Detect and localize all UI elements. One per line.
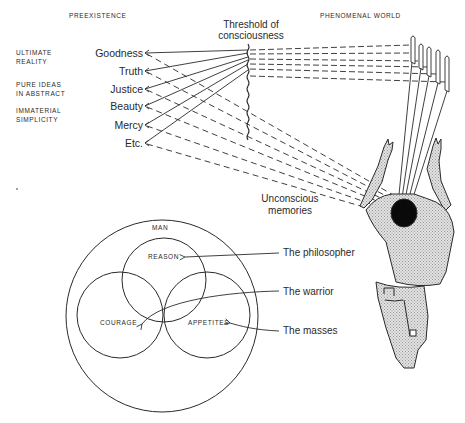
diagram-graphics — [0, 0, 465, 423]
unconscious-memories-label: Unconscious memories — [250, 194, 330, 216]
warrior-label: The warrior — [283, 287, 334, 297]
reason-label: REASON — [148, 254, 179, 261]
header-phenomenal-world: PHENOMENAL WORLD — [320, 13, 401, 20]
idea-etc: Etc. — [125, 138, 143, 149]
descriptor-immaterial-simplicity: IMMATERIAL SIMPLICITY — [16, 108, 61, 123]
man-circle — [66, 220, 258, 412]
header-preexistence: PREEXISTENCE — [69, 13, 126, 20]
stray-dot — [16, 188, 18, 190]
philosopher-label: The philosopher — [283, 248, 355, 258]
threshold-line — [247, 44, 249, 140]
appetites-label: APPETITES — [188, 320, 229, 327]
courage-circle — [77, 272, 163, 358]
idea-beauty: Beauty — [110, 101, 143, 112]
man-label: MAN — [152, 225, 168, 232]
courage-label: COURAGE — [100, 320, 137, 327]
idea-truth: Truth — [119, 66, 143, 77]
hand-fingers — [411, 36, 449, 92]
descriptor-ultimate-reality: ULTIMATE REALITY — [16, 50, 52, 65]
masses-label: The masses — [283, 326, 337, 336]
platonic-ideas-diagram: PREEXISTENCE PHENOMENAL WORLD ULTIMATE R… — [0, 0, 465, 423]
human-figure — [360, 138, 454, 368]
conscious-dashed-lines — [250, 45, 446, 82]
descriptor-pure-ideas: PURE IDEAS IN ABSTRACT — [16, 82, 65, 97]
idea-mercy: Mercy — [114, 120, 143, 131]
unconscious-memory-dashed-lines — [147, 54, 395, 216]
idea-justice: Justice — [110, 84, 143, 95]
threshold-label: Threshold of consciousness — [218, 20, 284, 41]
appetites-circle — [164, 272, 250, 358]
idea-goodness: Goodness — [95, 48, 143, 59]
soul-circles — [66, 220, 258, 412]
